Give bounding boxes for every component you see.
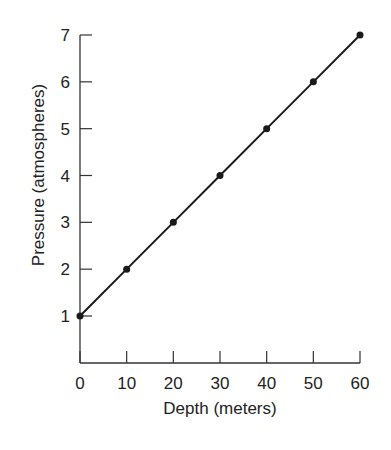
- data-point: [310, 78, 317, 85]
- y-tick-label: 5: [61, 120, 70, 139]
- axes: 12345670102030405060: [61, 26, 370, 393]
- x-tick-label: 0: [75, 374, 84, 393]
- y-tick-label: 3: [61, 213, 70, 232]
- data-point: [77, 313, 84, 320]
- plot-area: [77, 32, 364, 320]
- y-tick-label: 6: [61, 73, 70, 92]
- data-point: [357, 32, 364, 39]
- y-tick-label: 1: [61, 307, 70, 326]
- data-point: [123, 266, 130, 273]
- x-tick-label: 10: [117, 374, 136, 393]
- x-tick-label: 50: [304, 374, 323, 393]
- y-tick-label: 4: [61, 167, 70, 186]
- y-axis-label: Pressure (atmospheres): [29, 84, 48, 266]
- data-point: [263, 125, 270, 132]
- x-tick-label: 30: [211, 374, 230, 393]
- y-tick-label: 2: [61, 260, 70, 279]
- y-tick-label: 7: [61, 26, 70, 45]
- x-tick-label: 60: [351, 374, 370, 393]
- pressure-vs-depth-chart: 12345670102030405060 Depth (meters) Pres…: [0, 0, 391, 450]
- x-tick-label: 40: [257, 374, 276, 393]
- data-point: [170, 219, 177, 226]
- data-point: [217, 172, 224, 179]
- x-axis-label: Depth (meters): [163, 399, 276, 418]
- x-tick-label: 20: [164, 374, 183, 393]
